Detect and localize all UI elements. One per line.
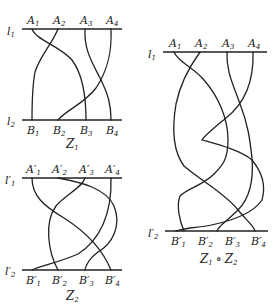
label-b1-prime: B′1 xyxy=(25,274,41,288)
label-a4-composite: A4 xyxy=(247,37,260,51)
label-b3-prime-composite: B′3 xyxy=(224,235,241,249)
strand-a2p-b3p xyxy=(58,178,117,270)
label-a2: A2 xyxy=(52,14,66,28)
label-b1: B1 xyxy=(26,124,40,138)
label-b4: B4 xyxy=(105,124,119,138)
label-l1-prime: l′1 xyxy=(5,174,15,188)
label-a3: A3 xyxy=(79,14,93,28)
label-b4-prime-composite: B′4 xyxy=(250,235,266,249)
strand-a1-composite xyxy=(174,52,228,231)
label-l2: l2 xyxy=(7,115,16,129)
label-b2-prime: B′2 xyxy=(51,274,68,288)
label-a2-prime: A′2 xyxy=(51,163,67,177)
label-b2: B2 xyxy=(52,124,66,138)
braid-z2: l′1 A′1 A′2 A′3 A′4 l′2 B′1 B′2 B′3 B′4 … xyxy=(5,163,122,304)
label-l2-prime: l′2 xyxy=(5,265,16,279)
caption-z1-compose-z2: Z1∘Z2 xyxy=(199,252,238,267)
label-b3-prime: B′3 xyxy=(78,274,95,288)
label-l1-composite: l1 xyxy=(148,48,156,62)
label-b3: B3 xyxy=(79,124,93,138)
label-b4-prime: B′4 xyxy=(104,274,120,288)
caption-z1: Z1 xyxy=(65,137,79,152)
label-a3-composite: A3 xyxy=(221,37,235,51)
label-a1: A1 xyxy=(26,14,39,28)
braid-z1-compose-z2: l1 A1 A2 A3 A4 l′2 B′1 B′2 B′3 B′4 Z1∘Z2 xyxy=(148,37,268,267)
label-a1-composite: A1 xyxy=(168,37,181,51)
label-a3-prime: A′3 xyxy=(78,163,94,177)
strand-a3-b4 xyxy=(85,29,111,120)
braid-composition-figure: l1 A1 A2 A3 A4 l2 B1 B2 B3 B4 Z1 l′1 A′1… xyxy=(0,0,276,308)
strand-a3p-b2p xyxy=(49,178,85,270)
label-a4: A4 xyxy=(105,14,118,28)
caption-z2: Z2 xyxy=(65,289,79,304)
strand-a4-b2 xyxy=(58,29,111,120)
label-b1-prime-composite: B′1 xyxy=(170,235,186,249)
strand-a3-composite xyxy=(217,52,252,231)
braid-z1: l1 A1 A2 A3 A4 l2 B1 B2 B3 B4 Z1 xyxy=(7,14,122,152)
label-a4-prime: A′4 xyxy=(104,163,120,177)
label-l2-prime-composite: l′2 xyxy=(148,227,159,241)
label-l1: l1 xyxy=(7,25,15,39)
label-a1-prime: A′1 xyxy=(25,163,41,177)
label-b2-prime-composite: B′2 xyxy=(197,235,214,249)
strand-a2-b1 xyxy=(32,29,58,120)
label-a2-composite: A2 xyxy=(194,37,208,51)
strand-a1-b3 xyxy=(32,29,86,120)
